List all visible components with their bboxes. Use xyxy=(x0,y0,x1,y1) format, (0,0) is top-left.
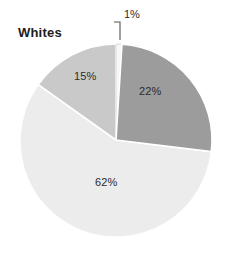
pie-label-62-percent: 62% xyxy=(95,176,117,188)
pie-slice-22-percent[interactable] xyxy=(116,44,212,151)
leader-line-icon xyxy=(114,22,120,40)
pie-chart-svg xyxy=(0,0,230,253)
pie-label-22-percent: 22% xyxy=(139,85,161,97)
pie-label-1-percent: 1% xyxy=(124,8,140,20)
pie-slices xyxy=(20,44,212,237)
pie-label-15-percent: 15% xyxy=(74,70,96,82)
pie-chart-figure: Whites 22% 15% 62% 1% xyxy=(0,0,230,253)
